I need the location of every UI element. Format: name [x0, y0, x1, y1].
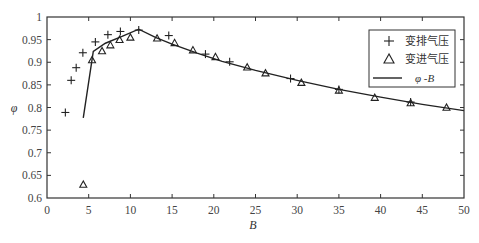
triangle-marker — [99, 47, 106, 53]
y-tick-label: 0.95 — [22, 34, 42, 46]
x-tick-label: 30 — [291, 204, 303, 216]
plus-marker — [79, 49, 87, 57]
plus-marker — [91, 38, 99, 46]
x-tick-label: 20 — [208, 204, 220, 216]
y-tick-label: 0.8 — [28, 102, 43, 114]
plus-marker — [67, 76, 75, 84]
plus-marker — [72, 64, 80, 72]
plus-marker — [165, 32, 173, 40]
plus-marker — [116, 27, 124, 35]
x-tick-label: 50 — [458, 204, 470, 216]
legend: 变排气压 变进气压 φ -B — [369, 30, 455, 87]
legend-label: 变进气压 — [405, 52, 449, 66]
plus-marker — [61, 108, 69, 116]
x-tick-label: 45 — [417, 204, 429, 216]
plus-marker — [104, 31, 112, 39]
x-axis-label: B — [249, 218, 257, 232]
y-tick-label: 0.6 — [28, 192, 43, 204]
x-tick-label: 10 — [125, 204, 137, 216]
legend-label: 变排气压 — [405, 34, 449, 48]
y-tick-label: 0.85 — [22, 79, 42, 91]
y-tick-label: 0.65 — [22, 169, 42, 181]
x-tick-label: 5 — [86, 204, 92, 216]
triangle-marker — [80, 181, 87, 187]
x-tick-label: 25 — [250, 204, 262, 216]
y-tick-label: 1 — [36, 11, 42, 23]
y-axis-label: φ — [11, 101, 18, 115]
triangle-marker — [127, 34, 134, 40]
chart: 051015202530354045500.60.650.70.750.80.8… — [0, 0, 479, 243]
y-tick-label: 0.9 — [28, 56, 43, 68]
x-tick-label: 15 — [166, 204, 178, 216]
x-tick-label: 0 — [44, 204, 50, 216]
legend-label: φ -B — [415, 72, 434, 84]
x-tick-label: 35 — [333, 204, 345, 216]
x-tick-label: 40 — [375, 204, 387, 216]
y-tick-label: 0.75 — [22, 124, 42, 136]
y-tick-label: 0.7 — [28, 147, 43, 159]
